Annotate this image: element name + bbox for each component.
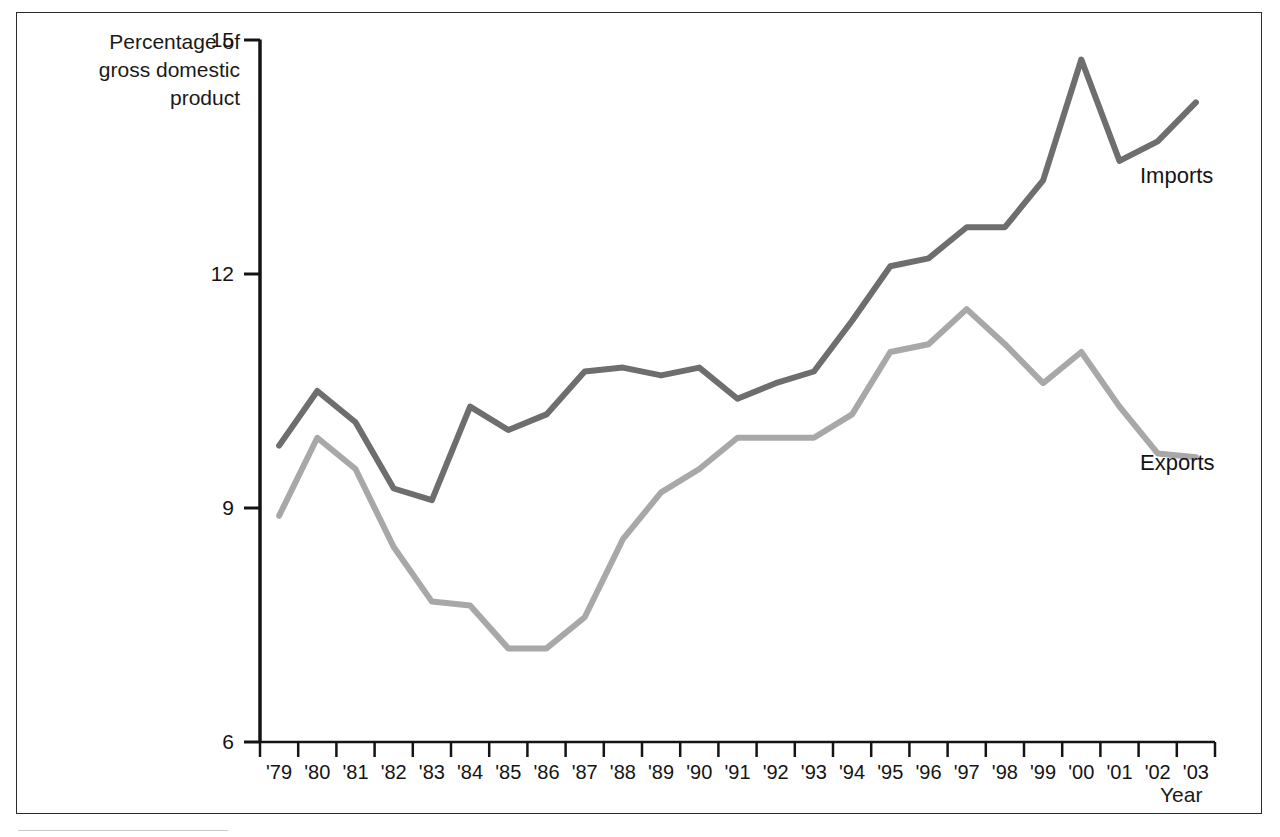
- x-tick-label: '03: [1175, 762, 1217, 782]
- x-tick-label: '80: [296, 762, 338, 782]
- x-axis-title: Year: [1160, 783, 1202, 807]
- x-tick-label: '81: [335, 762, 377, 782]
- x-tick-label: '93: [793, 762, 835, 782]
- series-label-imports: Imports: [1140, 165, 1213, 187]
- plot-area: [260, 40, 1215, 742]
- x-tick-label: '00: [1060, 762, 1102, 782]
- y-tick-label: 6: [188, 731, 234, 752]
- y-tick-label: 15: [188, 29, 234, 50]
- y-tick-label: 9: [188, 497, 234, 518]
- x-tick-label: '88: [602, 762, 644, 782]
- axes-group: [244, 40, 1215, 758]
- series-line-imports: [279, 60, 1196, 501]
- x-tick-label: '86: [526, 762, 568, 782]
- x-tick-label: '97: [946, 762, 988, 782]
- figure-footer-rule: [18, 830, 228, 831]
- series-line-exports: [279, 309, 1196, 648]
- series-label-exports: Exports: [1140, 452, 1215, 474]
- figure-container: Percentage of gross domestic product Yea…: [0, 0, 1280, 837]
- x-tick-label: '01: [1099, 762, 1141, 782]
- y-tick-label: 12: [188, 263, 234, 284]
- x-tick-label: '99: [1022, 762, 1064, 782]
- x-tick-label: '94: [831, 762, 873, 782]
- x-tick-label: '87: [564, 762, 606, 782]
- x-tick-label: '96: [908, 762, 950, 782]
- x-tick-label: '84: [449, 762, 491, 782]
- x-tick-label: '85: [487, 762, 529, 782]
- x-tick-label: '91: [717, 762, 759, 782]
- x-tick-label: '92: [755, 762, 797, 782]
- x-tick-label: '95: [869, 762, 911, 782]
- x-tick-label: '79: [258, 762, 300, 782]
- x-tick-label: '83: [411, 762, 453, 782]
- x-tick-label: '82: [373, 762, 415, 782]
- x-tick-label: '90: [678, 762, 720, 782]
- x-tick-label: '02: [1137, 762, 1179, 782]
- data-series-group: [279, 60, 1196, 649]
- x-tick-label: '89: [640, 762, 682, 782]
- line-chart-svg: [260, 40, 1215, 742]
- x-tick-label: '98: [984, 762, 1026, 782]
